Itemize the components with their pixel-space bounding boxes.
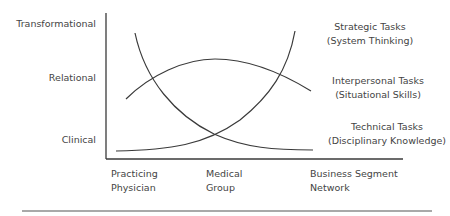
label-technical-sub: (Disciplinary Knowledge)	[322, 134, 450, 148]
x-category-practicing-physician: Practicing Physician	[111, 167, 158, 195]
curve-technical	[135, 33, 313, 150]
x-category-line2: Physician	[111, 181, 158, 195]
x-category-business-segment-network: Business Segment Network	[310, 167, 398, 195]
x-category-line1: Medical	[206, 167, 242, 181]
label-strategic: Strategic Tasks (System Thinking)	[305, 20, 435, 48]
label-interpersonal-title: Interpersonal Tasks	[313, 74, 443, 88]
y-level-relational: Relational	[0, 71, 96, 85]
curve-strategic	[116, 31, 295, 151]
x-category-line1: Business Segment	[310, 167, 398, 181]
label-interpersonal: Interpersonal Tasks (Situational Skills)	[313, 74, 443, 102]
x-category-medical-group: Medical Group	[206, 167, 242, 195]
label-strategic-sub: (System Thinking)	[305, 34, 435, 48]
x-category-line2: Group	[206, 181, 242, 195]
y-level-clinical: Clinical	[0, 133, 96, 147]
x-category-line1: Practicing	[111, 167, 158, 181]
y-level-transformational: Transformational	[0, 17, 96, 31]
label-strategic-title: Strategic Tasks	[305, 20, 435, 34]
x-category-line2: Network	[310, 181, 398, 195]
label-interpersonal-sub: (Situational Skills)	[313, 88, 443, 102]
label-technical: Technical Tasks (Disciplinary Knowledge)	[322, 120, 450, 148]
label-technical-title: Technical Tasks	[322, 120, 450, 134]
